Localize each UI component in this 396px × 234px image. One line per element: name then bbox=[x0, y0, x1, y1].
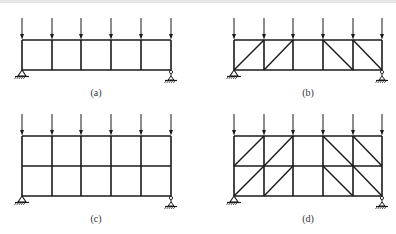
ground-hatch bbox=[380, 207, 382, 209]
panel-label-c: (c) bbox=[90, 213, 101, 224]
load-arrow-icon bbox=[351, 18, 355, 40]
diagonal-brace bbox=[234, 40, 264, 70]
arrow-head bbox=[139, 130, 143, 136]
ground-hatch bbox=[384, 207, 386, 209]
load-arrow-icon bbox=[351, 114, 355, 136]
roller-support-icon bbox=[376, 196, 389, 209]
arrow-head bbox=[321, 34, 325, 40]
panel-label-a: (a) bbox=[90, 87, 101, 98]
frame-panel-a bbox=[15, 18, 178, 83]
diagonal-brace bbox=[264, 166, 293, 196]
load-arrow-icon bbox=[139, 18, 143, 40]
load-arrow-icon bbox=[321, 114, 325, 136]
arrow-head bbox=[380, 130, 384, 136]
arrow-head bbox=[50, 34, 54, 40]
load-arrow-icon bbox=[109, 18, 113, 40]
ground-hatch bbox=[173, 81, 175, 83]
roller-support-icon bbox=[376, 70, 389, 83]
ground-hatch bbox=[382, 81, 384, 83]
arrow-head bbox=[262, 130, 266, 136]
load-arrow-icon bbox=[20, 114, 24, 136]
ground-hatch bbox=[165, 207, 167, 209]
load-arrow-icon bbox=[321, 18, 325, 40]
arrow-head bbox=[169, 34, 173, 40]
roller-support-icon bbox=[165, 70, 178, 83]
ground-hatch bbox=[23, 77, 25, 79]
frame-panel-b bbox=[227, 18, 389, 83]
diagonal-brace bbox=[323, 40, 353, 70]
load-arrow-icon bbox=[291, 114, 295, 136]
diagonal-brace bbox=[353, 40, 382, 70]
ground-hatch bbox=[17, 203, 19, 205]
ground-hatch bbox=[171, 207, 173, 209]
ground-hatch bbox=[227, 203, 229, 205]
load-arrow-icon bbox=[50, 18, 54, 40]
ground-hatch bbox=[384, 81, 386, 83]
load-arrow-icon bbox=[291, 18, 295, 40]
load-arrow-icon bbox=[79, 18, 83, 40]
load-arrow-icon bbox=[232, 114, 236, 136]
ground-hatch bbox=[229, 203, 231, 205]
load-arrow-icon bbox=[169, 114, 173, 136]
load-arrow-icon bbox=[109, 114, 113, 136]
ground-hatch bbox=[169, 81, 171, 83]
ground-hatch bbox=[382, 207, 384, 209]
ground-hatch bbox=[227, 77, 229, 79]
load-arrow-icon bbox=[232, 18, 236, 40]
ground-hatch bbox=[167, 207, 169, 209]
arrow-head bbox=[262, 34, 266, 40]
ground-hatch bbox=[380, 81, 382, 83]
pin-support-icon bbox=[227, 196, 242, 205]
arrow-head bbox=[50, 130, 54, 136]
arrow-head bbox=[291, 34, 295, 40]
arrow-head bbox=[321, 130, 325, 136]
diagonal-brace bbox=[234, 136, 264, 166]
ground-hatch bbox=[15, 77, 17, 79]
ground-hatch bbox=[235, 77, 237, 79]
ground-hatch bbox=[231, 77, 233, 79]
ground-hatch bbox=[19, 77, 21, 79]
frame-panel-d bbox=[227, 114, 389, 209]
diagonal-brace bbox=[234, 166, 264, 196]
load-arrow-icon bbox=[262, 114, 266, 136]
ground-hatch bbox=[21, 203, 23, 205]
pin-support-icon bbox=[15, 70, 30, 79]
ground-hatch bbox=[21, 77, 23, 79]
pin-support-icon bbox=[227, 70, 242, 79]
load-arrow-icon bbox=[262, 18, 266, 40]
arrow-head bbox=[20, 34, 24, 40]
ground-hatch bbox=[231, 203, 233, 205]
ground-hatch bbox=[171, 81, 173, 83]
ground-hatch bbox=[169, 207, 171, 209]
roller-support-icon bbox=[165, 196, 178, 209]
diagonal-brace bbox=[353, 166, 382, 196]
load-arrow-icon bbox=[20, 18, 24, 40]
arrow-head bbox=[232, 34, 236, 40]
diagonal-brace bbox=[264, 136, 293, 166]
arrow-head bbox=[169, 130, 173, 136]
arrow-head bbox=[109, 34, 113, 40]
diagonal-brace bbox=[264, 40, 293, 70]
arrow-head bbox=[291, 130, 295, 136]
arrow-head bbox=[109, 130, 113, 136]
ground-hatch bbox=[235, 203, 237, 205]
panel-label-b: (b) bbox=[302, 87, 314, 98]
ground-hatch bbox=[376, 81, 378, 83]
truss-frame-figure bbox=[0, 0, 396, 234]
ground-hatch bbox=[233, 77, 235, 79]
arrow-head bbox=[79, 130, 83, 136]
arrow-head bbox=[380, 34, 384, 40]
ground-hatch bbox=[167, 81, 169, 83]
ground-hatch bbox=[378, 81, 380, 83]
arrow-head bbox=[20, 130, 24, 136]
load-arrow-icon bbox=[169, 18, 173, 40]
ground-hatch bbox=[229, 77, 231, 79]
load-arrow-icon bbox=[79, 114, 83, 136]
load-arrow-icon bbox=[139, 114, 143, 136]
ground-hatch bbox=[19, 203, 21, 205]
diagonal-brace bbox=[323, 166, 353, 196]
pin-support-icon bbox=[15, 196, 30, 205]
arrow-head bbox=[139, 34, 143, 40]
ground-hatch bbox=[173, 207, 175, 209]
ground-hatch bbox=[376, 207, 378, 209]
